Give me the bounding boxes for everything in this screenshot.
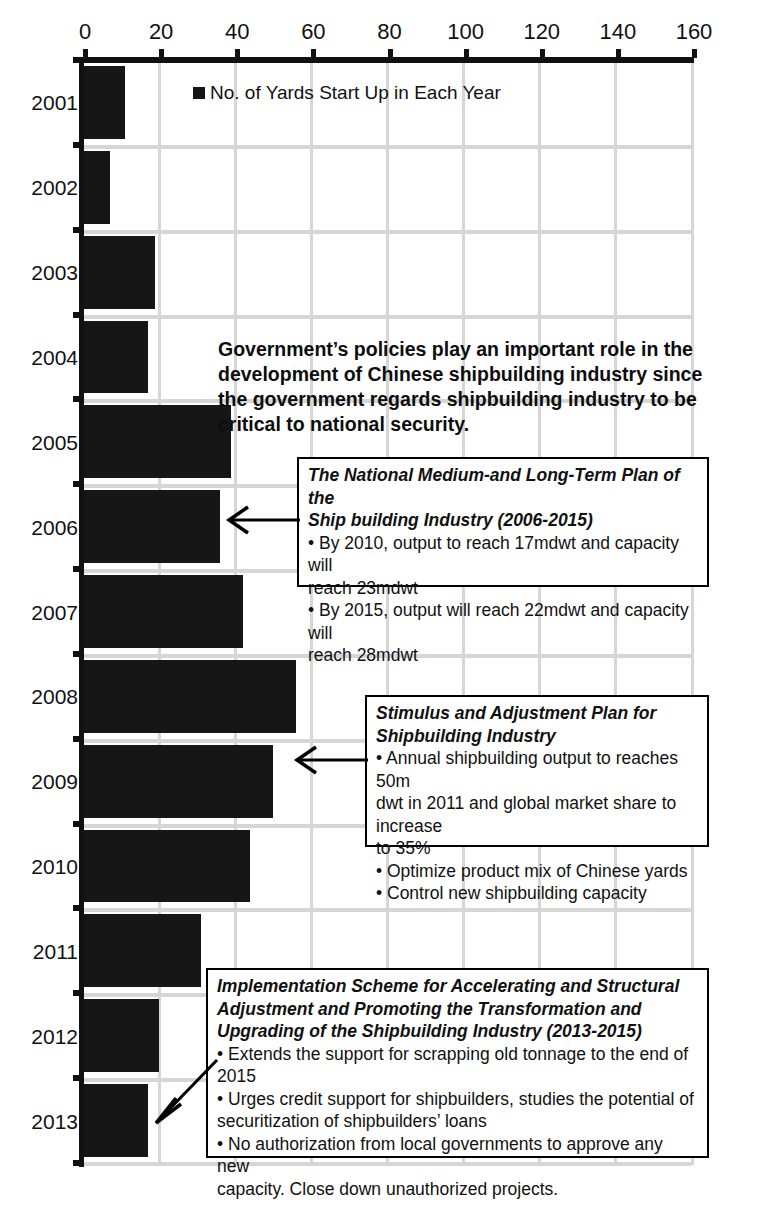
callout-body-line: • Extends the support for scrapping old …	[217, 1043, 699, 1066]
y-axis-tick	[73, 566, 81, 572]
callout-body-line: capacity. Close down unauthorized projec…	[217, 1178, 699, 1201]
callout-body-line: • By 2010, output to reach 17mdwt and ca…	[308, 532, 699, 577]
x-axis-tick	[235, 49, 240, 58]
callout-title-line: The National Medium-and Long-Term Plan o…	[308, 464, 699, 509]
y-axis-label-2007: 2007	[0, 601, 78, 625]
bar-2005	[83, 405, 231, 478]
y-axis-label-2002: 2002	[0, 176, 78, 200]
bar-2010	[83, 830, 250, 903]
x-axis-tick	[616, 49, 621, 58]
bar-2006	[83, 490, 220, 563]
bar-2013	[83, 1084, 148, 1157]
y-axis-label-2010: 2010	[0, 855, 78, 879]
callout-body-line: • Urges credit support for shipbuilders,…	[217, 1088, 699, 1111]
callout-body-line: dwt in 2011 and global market share to i…	[376, 792, 699, 837]
horizontal-gridline	[83, 908, 692, 912]
y-axis-label-2003: 2003	[0, 261, 78, 285]
x-axis-label-120: 120	[523, 19, 560, 45]
y-axis-label-2005: 2005	[0, 431, 78, 455]
callout-box-2009: Stimulus and Adjustment Plan for Shipbui…	[365, 695, 709, 847]
x-axis-tick	[464, 49, 469, 58]
callout-body-line: reach 28mdwt	[308, 644, 699, 667]
y-axis-tick	[73, 227, 81, 233]
y-axis-label-2009: 2009	[0, 770, 78, 794]
callout-box-2013: Implementation Scheme for Accelerating a…	[206, 968, 709, 1158]
callout-body-line: reach 23mdwt	[308, 577, 699, 600]
arrow-to-2006-icon	[222, 505, 302, 535]
x-axis-tick	[388, 49, 393, 58]
y-axis-label-2013: 2013	[0, 1110, 78, 1134]
callout-title-line: Upgrading of the Shipbuilding Industry (…	[217, 1020, 699, 1043]
y-axis-label-2008: 2008	[0, 685, 78, 709]
y-axis-tick	[73, 990, 81, 996]
y-axis-tick	[73, 312, 81, 318]
callout-title-line: Stimulus and Adjustment Plan for	[376, 702, 699, 725]
x-axis: 020406080100120140160	[81, 57, 694, 63]
x-axis-label-140: 140	[600, 19, 637, 45]
y-axis-tick	[73, 905, 81, 911]
y-axis-tick	[73, 142, 81, 148]
bar-2011	[83, 914, 201, 987]
bar-2009	[83, 745, 273, 818]
callout-title-line: Adjustment and Promoting the Transformat…	[217, 998, 699, 1021]
callout-body-line: • Optimize product mix of Chinese yards	[376, 860, 699, 883]
x-axis-tick	[311, 49, 316, 58]
callout-body-line: • Control new shipbuilding capacity	[376, 882, 699, 905]
callout-body-line: • Annual shipbuilding output to reaches …	[376, 747, 699, 792]
x-axis-label-60: 60	[301, 19, 325, 45]
bar-2007	[83, 575, 243, 648]
y-axis-tick	[73, 651, 81, 657]
y-axis-tick	[73, 1075, 81, 1081]
bar-2002	[83, 151, 110, 224]
callout-title-line: Shipbuilding Industry	[376, 725, 699, 748]
bar-2001	[83, 66, 125, 139]
bar-2008	[83, 660, 296, 733]
y-axis-tick	[73, 736, 81, 742]
callout-body-line: • By 2015, output will reach 22mdwt and …	[308, 599, 699, 644]
chart-container: 020406080100120140160 No. of Yards Start…	[0, 0, 781, 1205]
callout-body-line: securitization of shipbuilders’ loans	[217, 1110, 699, 1133]
callout-title-line: Implementation Scheme for Accelerating a…	[217, 975, 699, 998]
x-axis-tick	[692, 49, 697, 58]
bar-2004	[83, 321, 148, 394]
chart-legend: No. of Yards Start Up in Each Year	[193, 82, 501, 104]
x-axis-tick	[159, 49, 164, 58]
x-axis-tick	[540, 49, 545, 58]
intro-annotation: Government’s policies play an important …	[218, 337, 718, 437]
callout-body-line: to 35%	[376, 837, 699, 860]
horizontal-gridline	[83, 230, 692, 234]
y-axis	[79, 57, 84, 1167]
x-axis-label-100: 100	[447, 19, 484, 45]
x-axis-label-20: 20	[149, 19, 173, 45]
y-axis-label-2001: 2001	[0, 91, 78, 115]
y-axis-label-2012: 2012	[0, 1025, 78, 1049]
x-axis-label-0: 0	[79, 19, 91, 45]
y-axis-tick	[73, 57, 81, 63]
y-axis-label-2011: 2011	[0, 940, 78, 964]
x-axis-label-80: 80	[377, 19, 401, 45]
legend-swatch-icon	[193, 87, 205, 99]
legend-label: No. of Yards Start Up in Each Year	[210, 82, 501, 104]
y-axis-label-2006: 2006	[0, 516, 78, 540]
callout-body-line: 2015	[217, 1065, 699, 1088]
y-axis-tick	[73, 481, 81, 487]
callout-body-line: • No authorization from local government…	[217, 1133, 699, 1178]
callout-title-line: Ship building Industry (2006-2015)	[308, 509, 699, 532]
y-axis-label-2004: 2004	[0, 346, 78, 370]
callout-box-2006: The National Medium-and Long-Term Plan o…	[297, 457, 709, 587]
y-axis-tick	[73, 396, 81, 402]
bar-2003	[83, 236, 155, 309]
y-axis-tick	[73, 1160, 81, 1166]
x-axis-label-40: 40	[225, 19, 249, 45]
arrow-to-2009-icon	[290, 745, 370, 775]
x-axis-label-160: 160	[676, 19, 713, 45]
arrow-to-2013-icon	[145, 1052, 225, 1132]
horizontal-gridline	[83, 145, 692, 149]
y-axis-tick	[73, 821, 81, 827]
horizontal-gridline	[83, 315, 692, 319]
